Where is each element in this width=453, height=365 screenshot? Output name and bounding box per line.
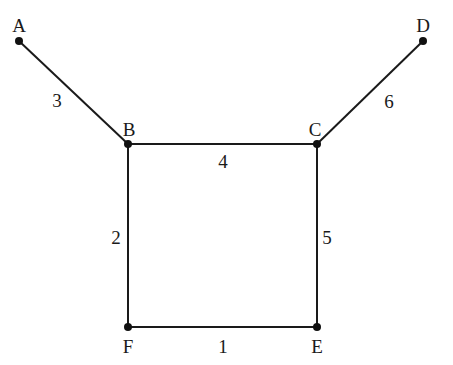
nodes-group [15, 37, 427, 331]
edge-weight-label: 2 [111, 227, 121, 248]
edge-weight-label: 1 [218, 336, 228, 357]
edge-weight-label: 4 [218, 151, 228, 172]
node-label-e: E [311, 336, 323, 357]
edge-weight-label: 5 [322, 227, 332, 248]
edge-weight-label: 6 [384, 91, 394, 112]
node-a [15, 37, 23, 45]
node-c [313, 140, 321, 148]
edge-weight-label: 3 [52, 90, 62, 111]
node-b [124, 140, 132, 148]
node-label-c: C [309, 119, 322, 140]
node-label-b: B [123, 119, 136, 140]
node-label-d: D [416, 15, 430, 36]
node-f [124, 323, 132, 331]
node-label-a: A [12, 15, 26, 36]
edge-a-b [19, 41, 128, 144]
edges-group [19, 41, 423, 327]
labels-group: 346251ABCDEF [12, 15, 430, 357]
edge-c-d [317, 41, 423, 144]
weighted-graph-diagram: 346251ABCDEF [0, 0, 453, 365]
node-e [313, 323, 321, 331]
node-d [419, 37, 427, 45]
node-label-f: F [123, 336, 134, 357]
